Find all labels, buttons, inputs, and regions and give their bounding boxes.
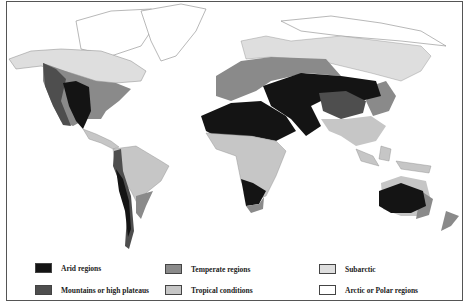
legend-item-arctic: Arctic or Polar regions bbox=[319, 285, 418, 295]
legend-label: Subarctic bbox=[345, 265, 376, 274]
swatch-tropical bbox=[165, 285, 182, 295]
map-frame: Arid regions Mountains or high plateaus … bbox=[6, 1, 463, 301]
swatch-arctic bbox=[319, 285, 336, 295]
legend-item-arid: Arid regions bbox=[35, 263, 101, 273]
legend-label: Tropical conditions bbox=[191, 286, 253, 295]
swatch-subarctic bbox=[319, 264, 336, 274]
swatch-mountains bbox=[35, 285, 52, 295]
swatch-arid bbox=[35, 263, 52, 273]
legend-label: Mountains or high plateaus bbox=[61, 286, 149, 295]
legend: Arid regions Mountains or high plateaus … bbox=[7, 257, 462, 300]
central-america-tropical bbox=[83, 129, 119, 149]
legend-label: Arctic or Polar regions bbox=[345, 286, 418, 295]
legend-item-subarctic: Subarctic bbox=[319, 264, 376, 274]
legend-label: Temperate regions bbox=[191, 265, 250, 274]
legend-item-temperate: Temperate regions bbox=[165, 264, 250, 274]
legend-item-tropical: Tropical conditions bbox=[165, 285, 253, 295]
south-asia-tropical bbox=[321, 116, 386, 146]
southeast-asia-islands bbox=[356, 146, 431, 173]
new-zealand bbox=[441, 211, 459, 231]
legend-label: Arid regions bbox=[61, 264, 101, 273]
legend-item-mountains: Mountains or high plateaus bbox=[35, 285, 149, 295]
world-climate-map bbox=[7, 2, 462, 257]
swatch-temperate bbox=[165, 264, 182, 274]
